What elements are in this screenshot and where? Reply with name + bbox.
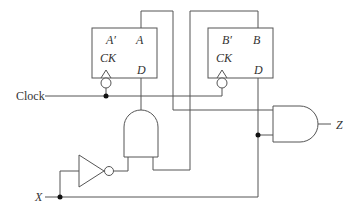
flipflop-a-q-label: A xyxy=(135,33,144,47)
x-input-label: X xyxy=(34,190,43,204)
z-output-label: Z xyxy=(336,118,343,132)
circuit-diagram: A′ A CK D B′ B CK D Clock X Z xyxy=(0,0,363,214)
junction-dot-icon xyxy=(104,94,109,99)
junction-dot-icon xyxy=(256,133,261,138)
clock-inversion-bubble-icon xyxy=(217,78,227,88)
flipflop-b-q-label: B xyxy=(253,33,261,47)
and-gate-right xyxy=(273,106,318,142)
flipflop-b: B′ B CK D xyxy=(208,28,273,88)
clock-input-label: Clock xyxy=(16,89,45,103)
clock-inversion-bubble-icon xyxy=(101,78,111,88)
inverter-gate xyxy=(79,155,104,187)
flipflop-b-d-label: D xyxy=(253,63,263,77)
junction-dot-icon xyxy=(58,195,63,200)
inverter-bubble-icon xyxy=(105,167,114,176)
flipflop-b-ck-label: CK xyxy=(216,51,233,65)
flipflop-a: A′ A CK D xyxy=(92,28,157,88)
and-gate-left xyxy=(124,110,158,157)
flipflop-b-qbar-label: B′ xyxy=(222,33,232,47)
flipflop-a-ck-label: CK xyxy=(100,51,117,65)
flipflop-a-d-label: D xyxy=(136,63,146,77)
flipflop-a-qbar-label: A′ xyxy=(105,33,116,47)
